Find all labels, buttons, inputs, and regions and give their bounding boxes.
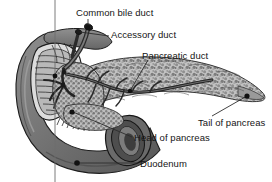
dot-duodenum (74, 160, 80, 166)
dot-pancreatic-duct (128, 89, 132, 93)
label-common-bile-duct: Common bile duct (76, 8, 153, 18)
label-pancreatic-duct: Pancreatic duct (142, 51, 208, 61)
dot-tail-of-pancreas (244, 93, 249, 98)
pancreas-duodenum-illustration (0, 0, 272, 182)
dot-head-of-pancreas (69, 109, 74, 114)
dot-vertical-reference (53, 74, 58, 79)
label-tail-of-pancreas: Tail of pancreas (198, 118, 265, 128)
cropped-caption-text (0, 176, 272, 182)
label-head-of-pancreas: Head of pancreas (134, 133, 210, 143)
label-accessory-duct: Accessory duct (111, 30, 176, 40)
label-duodenum: Duodenum (140, 159, 187, 169)
dot-common-bile-duct (85, 25, 90, 30)
anatomy-figure: Common bile duct Accessory duct Pancreat… (0, 0, 272, 182)
